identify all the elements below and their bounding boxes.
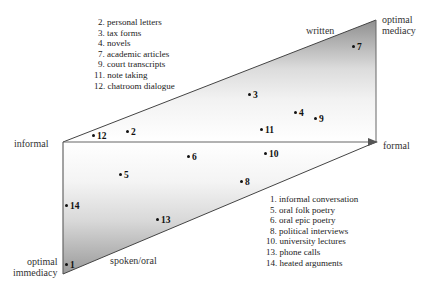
point-marker-icon [314,117,317,120]
point-marker-icon [187,155,190,158]
legend-item: 14. heated arguments [266,258,358,269]
data-point: 14 [65,201,80,211]
data-point: 6 [187,152,197,162]
data-point: 7 [352,42,362,52]
data-point: 12 [92,131,107,141]
point-label: 3 [253,90,258,100]
point-label: 5 [124,170,129,180]
point-marker-icon [294,111,297,114]
point-marker-icon [240,180,243,183]
data-point: 5 [119,170,129,180]
data-point: 3 [248,90,258,100]
optimal-mediacy-label: optimal mediacy [382,14,416,36]
point-marker-icon [65,263,68,266]
data-point: 8 [240,177,250,187]
spoken-legend: 1. informal conversation 5. oral folk po… [266,194,358,268]
point-label: 1 [70,260,75,270]
optimal-immediacy-label: optimal immediacy [13,256,57,278]
legend-item: 3. tax forms [94,28,175,39]
legend-item: 2. personal letters [94,17,175,28]
point-label: 4 [299,108,304,118]
legend-item: 12. chatroom dialogue [94,81,175,92]
formal-label: formal [383,140,410,151]
legend-item: 6. oral epic poetry [266,215,358,226]
informal-label: informal [14,138,48,149]
data-point: 4 [294,108,304,118]
legend-item: 7. academic articles [94,49,175,60]
point-label: 13 [161,215,171,225]
legend-item: 11. note taking [94,70,175,81]
written-legend: 2. personal letters 3. tax forms 4. nove… [94,17,175,91]
legend-item: 10. university lectures [266,236,358,247]
legend-item: 8. political interviews [266,226,358,237]
legend-item: 1. informal conversation [266,194,358,205]
point-marker-icon [248,93,251,96]
data-point: 2 [126,127,136,137]
point-marker-icon [65,204,68,207]
point-marker-icon [156,218,159,221]
point-marker-icon [264,152,267,155]
written-label: written [306,25,334,36]
legend-item: 13. phone calls [266,247,358,258]
data-point: 11 [260,125,274,135]
legend-item: 4. novels [94,38,175,49]
point-marker-icon [260,128,263,131]
point-marker-icon [92,134,95,137]
data-point: 10 [264,149,279,159]
point-label: 7 [357,42,362,52]
point-label: 6 [192,152,197,162]
point-marker-icon [119,173,122,176]
data-point: 1 [65,260,75,270]
spoken-label: spoken/oral [110,255,157,266]
data-point: 9 [314,114,324,124]
point-label: 2 [131,127,136,137]
point-label: 12 [97,131,107,141]
mediacy-diagram [0,0,433,292]
point-label: 14 [70,201,80,211]
point-label: 11 [265,125,274,135]
point-marker-icon [126,130,129,133]
point-label: 9 [319,114,324,124]
point-marker-icon [352,45,355,48]
point-label: 10 [269,149,279,159]
legend-item: 9. court transcripts [94,59,175,70]
data-point: 13 [156,215,171,225]
point-label: 8 [245,177,250,187]
legend-item: 5. oral folk poetry [266,205,358,216]
